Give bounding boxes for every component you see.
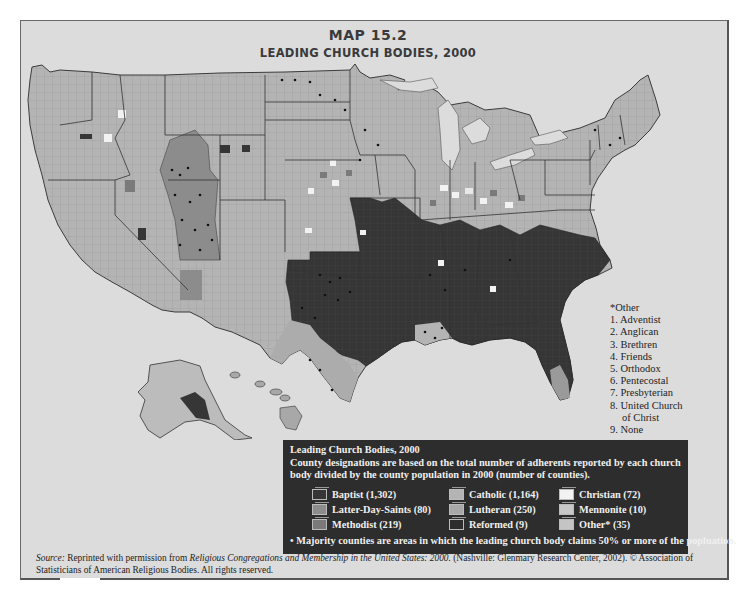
methodist-swatch-icon xyxy=(312,519,327,530)
reformed-swatch-icon xyxy=(449,519,464,530)
latter-day-saints-swatch-icon xyxy=(312,504,327,515)
legend-item-baptist: Baptist (1,302) xyxy=(312,489,449,500)
other-list-item: 3. Brethren xyxy=(610,339,683,351)
legend-title: Leading Church Bodies, 2000 xyxy=(290,444,681,457)
legend-description: County designations are based on the tot… xyxy=(290,457,681,482)
other-list-item: 8. United Church xyxy=(610,400,683,412)
legend-footnote: • Majority counties are areas in which t… xyxy=(290,535,681,546)
source-citation: Source: Reprinted with permission from R… xyxy=(36,553,726,576)
other-list-header: *Other xyxy=(610,302,683,314)
mennonite-swatch-icon xyxy=(559,504,574,515)
legend-item-reformed: Reformed (9) xyxy=(449,519,559,530)
legend-items: Baptist (1,302) Catholic (1,164) Christi… xyxy=(312,489,681,530)
lutheran-swatch-icon xyxy=(449,504,464,515)
frame-notch xyxy=(60,578,100,584)
source-book-title: Religious Congregations and Membership i… xyxy=(190,553,451,563)
other-list-item: 1. Adventist xyxy=(610,314,683,326)
source-label: Source: xyxy=(36,553,65,563)
other-list-item: 6. Pentecostal xyxy=(610,375,683,387)
other-list-item: 9. None xyxy=(610,424,683,436)
baptist-swatch-icon xyxy=(312,489,327,500)
other-list-item: 2. Anglican xyxy=(610,326,683,338)
legend-item-other: Other* (35) xyxy=(559,519,689,530)
catholic-swatch-icon xyxy=(449,489,464,500)
christian-swatch-icon xyxy=(559,489,574,500)
legend-item-mennonite: Mennonite (10) xyxy=(559,504,689,515)
source-text-before: Reprinted with permission from xyxy=(65,553,190,563)
hawaii xyxy=(230,372,302,430)
legend-item-methodist: Methodist (219) xyxy=(312,519,449,530)
other-list-item: of Christ xyxy=(610,412,683,424)
other-list-item: 4. Friends xyxy=(610,351,683,363)
legend-item-lutheran: Lutheran (250) xyxy=(449,504,559,515)
other-swatch-icon xyxy=(559,519,574,530)
map-legend: Leading Church Bodies, 2000 County desig… xyxy=(283,440,688,554)
legend-item-latter-day-saints: Latter-Day-Saints (80) xyxy=(312,504,449,515)
legend-item-catholic: Catholic (1,164) xyxy=(449,489,559,500)
legend-item-christian: Christian (72) xyxy=(559,489,689,500)
other-list-item: 5. Orthodox xyxy=(610,363,683,375)
other-list-item: 7. Presbyterian xyxy=(610,387,683,399)
other-denominations-list: *Other 1. Adventist 2. Anglican 3. Breth… xyxy=(610,302,683,436)
